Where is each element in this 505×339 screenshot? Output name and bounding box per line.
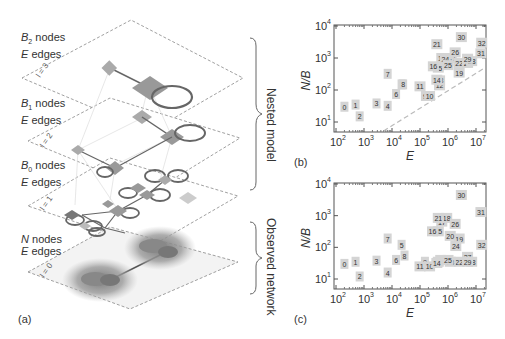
svg-text:26: 26 (451, 221, 459, 228)
data-point: 15 (433, 226, 444, 236)
svg-text:15: 15 (434, 228, 442, 235)
data-point: 26 (450, 219, 461, 229)
reference-line (384, 68, 485, 131)
panel-b-tag: (b) (294, 156, 307, 168)
svg-text:1: 1 (354, 102, 358, 109)
data-point: 2 (356, 271, 364, 281)
panel-c-tag: (c) (294, 313, 307, 325)
x-tick-label: 10 (470, 136, 482, 148)
svg-text:7: 7 (386, 236, 390, 243)
svg-text:21: 21 (433, 41, 441, 48)
svg-text:16: 16 (429, 63, 437, 70)
y-tick-label: 10 (315, 178, 327, 190)
svg-text:1: 1 (327, 271, 331, 278)
svg-text:5: 5 (400, 242, 404, 249)
x-tick-label: 10 (386, 293, 398, 305)
data-point: 32 (476, 240, 487, 250)
y-axis-label: N/B (299, 228, 313, 248)
data-point: 31 (475, 207, 486, 217)
data-point: 17 (436, 53, 447, 63)
svg-text:5: 5 (400, 81, 404, 88)
svg-text:20: 20 (446, 233, 454, 240)
svg-text:0: 0 (342, 104, 346, 111)
svg-text:3: 3 (375, 258, 379, 265)
x-tick-label: 10 (414, 136, 426, 148)
svg-text:20: 20 (447, 55, 455, 62)
svg-text:2: 2 (358, 273, 362, 280)
svg-text:8: 8 (403, 253, 407, 260)
data-point: 4 (384, 101, 392, 111)
data-point: 2 (356, 111, 364, 121)
svg-text:32: 32 (478, 242, 486, 249)
y-tick-label: 10 (315, 84, 327, 96)
data-point: 23 (443, 56, 454, 66)
data-point: 14 (431, 258, 442, 268)
svg-text:4: 4 (386, 103, 390, 110)
svg-text:6: 6 (454, 134, 458, 141)
data-point: 1 (352, 257, 360, 267)
x-tick-label: 10 (330, 136, 342, 148)
svg-text:12: 12 (437, 257, 445, 264)
y-tick-label: 10 (315, 210, 327, 222)
svg-text:8: 8 (401, 81, 405, 88)
data-point: 30 (456, 190, 467, 200)
svg-text:7: 7 (482, 291, 486, 298)
y-tick-label: 10 (315, 20, 327, 32)
svg-text:30: 30 (457, 192, 465, 199)
data-point: 12 (435, 255, 446, 265)
svg-text:4: 4 (327, 18, 331, 25)
data-point: 25 (443, 255, 454, 265)
svg-text:17: 17 (438, 55, 446, 62)
svg-text:25: 25 (444, 62, 452, 69)
y-tick-label: 10 (315, 116, 327, 128)
data-point: 8 (399, 79, 407, 89)
svg-text:13: 13 (434, 259, 442, 266)
svg-text:24: 24 (452, 243, 460, 250)
observed-network-label: Observed network (264, 218, 278, 315)
svg-text:3: 3 (327, 50, 331, 57)
svg-text:21: 21 (434, 215, 442, 222)
svg-text:6: 6 (454, 291, 458, 298)
svg-text:10: 10 (426, 93, 434, 100)
x-tick-label: 10 (442, 136, 454, 148)
svg-text:14: 14 (433, 77, 441, 84)
data-point: 21 (431, 39, 442, 49)
svg-text:15: 15 (434, 65, 442, 72)
data-point: 27 (462, 58, 473, 68)
y-tick-label: 10 (315, 241, 327, 253)
svg-text:4: 4 (386, 270, 390, 277)
svg-text:28: 28 (468, 259, 476, 266)
svg-text:27: 27 (464, 60, 472, 67)
data-point: 0 (340, 102, 348, 112)
svg-text:31: 31 (477, 50, 485, 57)
svg-text:18: 18 (443, 215, 451, 222)
data-point: 20 (445, 231, 456, 241)
data-point: 17 (436, 217, 447, 227)
svg-text:5: 5 (426, 291, 430, 298)
svg-text:24: 24 (441, 56, 449, 63)
x-axis-label: E (406, 149, 415, 163)
data-point: 7 (384, 69, 392, 79)
y-axis-label: N/B (299, 70, 313, 90)
data-point: 21 (433, 213, 444, 223)
svg-text:22: 22 (455, 259, 463, 266)
svg-text:28: 28 (468, 58, 476, 65)
data-point: 27 (462, 252, 473, 262)
x-tick-label: 10 (330, 293, 342, 305)
data-point: 1 (352, 100, 360, 110)
data-point: 20 (446, 53, 457, 63)
svg-text:5: 5 (426, 134, 430, 141)
layer-label-b0: B0 nodes E edges (21, 159, 65, 188)
svg-text:6: 6 (394, 91, 398, 98)
data-point: 24 (440, 54, 451, 64)
layer-label-b2: B2 nodes E edges (21, 31, 65, 60)
data-point: 32 (476, 38, 487, 48)
data-point: 19 (454, 234, 465, 244)
data-point: 8 (401, 251, 409, 261)
svg-text:3: 3 (370, 134, 374, 141)
data-point: 30 (456, 32, 467, 42)
svg-text:2: 2 (342, 134, 346, 141)
y-tick-label: 10 (315, 273, 327, 285)
x-tick-label: 10 (442, 293, 454, 305)
data-point: 22 (454, 257, 465, 267)
